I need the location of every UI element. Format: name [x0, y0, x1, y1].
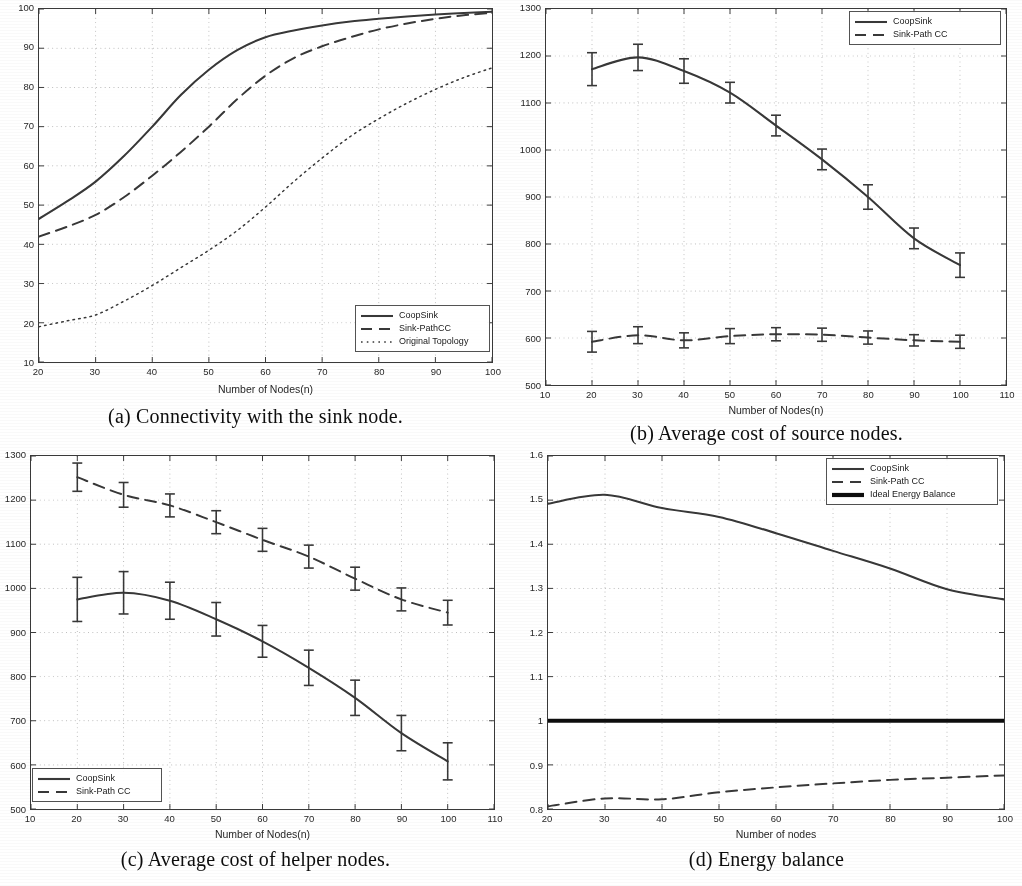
x-tick-a: 50	[189, 366, 229, 377]
x-tick-a: 30	[75, 366, 115, 377]
x-tick-b: 100	[941, 389, 981, 400]
legend-swatch-dashed-icon	[37, 787, 71, 797]
caption-d: (d) Energy balance	[511, 848, 1022, 871]
y-tick-a: 40	[0, 239, 34, 250]
legend-item-ideal-energy-balance: Ideal Energy Balance	[831, 488, 992, 501]
y-tick-b: 700	[511, 286, 541, 297]
legend-item-sink-path-cc: Sink-Path CC	[831, 475, 992, 488]
legend-item-sink-path-cc: Sink-Path CC	[854, 28, 995, 41]
panel-d: 1.61.51.41.31.21.110.90.8 20304050607080…	[511, 443, 1022, 886]
caption-b: (b) Average cost of source nodes.	[511, 422, 1022, 445]
x-tick-b: 10	[525, 389, 565, 400]
plot-area-c	[30, 455, 495, 810]
y-tick-a: 60	[0, 160, 34, 171]
legend-label: Sink-Path CC	[893, 28, 948, 41]
x-tick-c: 70	[289, 813, 329, 824]
x-tick-a: 70	[302, 366, 342, 377]
x-tick-c: 20	[57, 813, 97, 824]
x-tick-b: 110	[987, 389, 1022, 400]
legend-item-coopsink: CoopSink	[854, 15, 995, 28]
y-tick-d: 1	[511, 715, 543, 726]
legend-label: Ideal Energy Balance	[870, 488, 956, 501]
x-tick-a: 90	[416, 366, 456, 377]
x-tick-b: 50	[710, 389, 750, 400]
plot-area-d	[547, 455, 1005, 810]
y-tick-c: 800	[0, 671, 26, 682]
x-tick-b: 60	[756, 389, 796, 400]
y-tick-a: 80	[0, 81, 34, 92]
x-tick-c: 50	[196, 813, 236, 824]
y-tick-c: 900	[0, 627, 26, 638]
y-tick-d: 1.2	[511, 627, 543, 638]
legend-item-sink-pathcc: Sink-PathCC	[360, 322, 484, 335]
x-tick-c: 80	[336, 813, 376, 824]
x-tick-d: 70	[813, 813, 853, 824]
panel-a: 100908070605040302010 203040506070809010…	[0, 0, 511, 443]
y-tick-c: 1300	[0, 449, 26, 460]
x-tick-c: 110	[475, 813, 515, 824]
plot-canvas-b	[546, 9, 1006, 385]
y-tick-c: 600	[0, 760, 26, 771]
x-axis-label-d: Number of nodes	[547, 828, 1005, 840]
y-tick-c: 700	[0, 715, 26, 726]
x-tick-c: 60	[243, 813, 283, 824]
legend-swatch-solid-icon	[360, 311, 394, 321]
y-tick-b: 1200	[511, 49, 541, 60]
y-tick-d: 1.6	[511, 449, 543, 460]
x-axis-label-c: Number of Nodes(n)	[30, 828, 495, 840]
y-tick-c: 1200	[0, 493, 26, 504]
x-tick-b: 40	[664, 389, 704, 400]
x-tick-a: 20	[18, 366, 58, 377]
legend-item-sink-path-cc: Sink-Path CC	[37, 785, 156, 798]
legend-swatch-thick-icon	[831, 490, 865, 500]
legend-label: CoopSink	[870, 462, 909, 475]
y-tick-c: 1000	[0, 582, 26, 593]
y-tick-a: 20	[0, 318, 34, 329]
legend-item-coopsink: CoopSink	[831, 462, 992, 475]
y-tick-b: 900	[511, 191, 541, 202]
y-tick-b: 1300	[511, 2, 541, 13]
y-tick-a: 30	[0, 278, 34, 289]
x-tick-d: 30	[584, 813, 624, 824]
legend-c: CoopSinkSink-Path CC	[32, 768, 162, 802]
x-tick-a: 40	[132, 366, 172, 377]
y-tick-d: 1.1	[511, 671, 543, 682]
x-tick-b: 20	[571, 389, 611, 400]
legend-swatch-dashed-icon	[831, 477, 865, 487]
x-axis-label-a: Number of Nodes(n)	[38, 383, 493, 395]
plot-area-b	[545, 8, 1007, 386]
y-tick-b: 1000	[511, 144, 541, 155]
legend-swatch-dotted-icon	[360, 337, 394, 347]
legend-label: Sink-PathCC	[399, 322, 451, 335]
legend-label: CoopSink	[893, 15, 932, 28]
plot-canvas-c	[31, 456, 494, 809]
y-tick-a: 70	[0, 120, 34, 131]
x-tick-b: 80	[848, 389, 888, 400]
x-tick-b: 90	[895, 389, 935, 400]
legend-swatch-solid-icon	[831, 464, 865, 474]
y-tick-b: 1100	[511, 97, 541, 108]
legend-label: Sink-Path CC	[76, 785, 131, 798]
x-tick-c: 10	[10, 813, 50, 824]
plot-canvas-d	[548, 456, 1004, 809]
panel-c: 1300120011001000900800700600500 10203040…	[0, 443, 511, 886]
legend-swatch-dashed-icon	[360, 324, 394, 334]
legend-a: CoopSinkSink-PathCCOriginal Topology	[355, 305, 490, 352]
legend-label: CoopSink	[399, 309, 438, 322]
x-tick-d: 20	[527, 813, 567, 824]
y-tick-a: 50	[0, 199, 34, 210]
legend-label: CoopSink	[76, 772, 115, 785]
x-tick-a: 80	[359, 366, 399, 377]
y-tick-d: 1.5	[511, 493, 543, 504]
legend-item-coopsink: CoopSink	[37, 772, 156, 785]
y-tick-c: 1100	[0, 538, 26, 549]
y-tick-d: 0.9	[511, 760, 543, 771]
x-axis-label-b: Number of Nodes(n)	[545, 404, 1007, 416]
legend-swatch-solid-icon	[854, 17, 888, 27]
x-tick-a: 60	[246, 366, 286, 377]
x-tick-d: 40	[642, 813, 682, 824]
x-tick-c: 30	[103, 813, 143, 824]
y-tick-a: 90	[0, 41, 34, 52]
legend-b: CoopSinkSink-Path CC	[849, 11, 1001, 45]
legend-label: Sink-Path CC	[870, 475, 925, 488]
